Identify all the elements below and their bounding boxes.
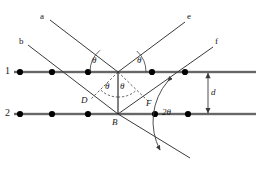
atom-node bbox=[85, 111, 91, 117]
angle-label-theta-incident: θ bbox=[92, 56, 96, 65]
ray-label-f: f bbox=[215, 37, 218, 46]
diagram-canvas bbox=[0, 0, 256, 176]
spacing-label-d: d bbox=[211, 88, 216, 97]
atom-node bbox=[49, 69, 55, 75]
point-label-D: D bbox=[81, 96, 88, 105]
angle-label-theta-left-lower: θ bbox=[105, 82, 109, 91]
incident-ray-b bbox=[28, 45, 118, 114]
atom-node bbox=[149, 69, 155, 75]
atom-node bbox=[49, 111, 55, 117]
scattered-ray-e bbox=[118, 22, 185, 72]
atom-node bbox=[182, 69, 188, 75]
bragg-diffraction-figure: a b e f 1 2 θ θ θ θ D B F 2θ d bbox=[0, 0, 256, 176]
point-label-B: B bbox=[112, 118, 118, 127]
angle-arc-theta-right-lower bbox=[118, 91, 136, 98]
atomic-plane-1 bbox=[14, 69, 256, 75]
ray-label-a: a bbox=[40, 12, 44, 21]
scattered-ray-f bbox=[118, 47, 213, 114]
ray-label-e: e bbox=[187, 12, 191, 21]
atom-node bbox=[17, 111, 23, 117]
plane-label-1: 1 bbox=[5, 66, 10, 76]
transmitted-ray bbox=[118, 114, 190, 158]
angle-label-theta-right-lower: θ bbox=[120, 82, 124, 91]
atomic-plane-2 bbox=[14, 111, 256, 117]
atom-node bbox=[185, 111, 191, 117]
atom-node bbox=[17, 69, 23, 75]
angle-label-theta-scattered: θ bbox=[137, 56, 141, 65]
point-label-F: F bbox=[146, 99, 152, 108]
incident-ray-a bbox=[50, 20, 118, 72]
ray-label-b: b bbox=[19, 37, 24, 46]
angle-label-two-theta: 2θ bbox=[162, 108, 171, 117]
plane-label-2: 2 bbox=[5, 108, 10, 118]
